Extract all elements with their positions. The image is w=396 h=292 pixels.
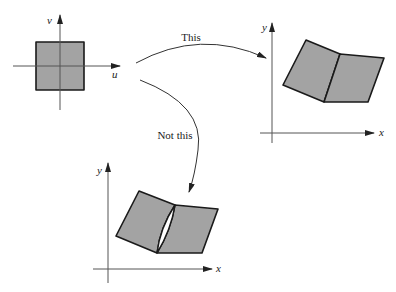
diagram-canvas: v u This y x Not this y x <box>0 0 396 292</box>
source-plot: v u <box>13 14 120 110</box>
y-axis-label: y <box>261 21 267 33</box>
this-label: This <box>181 31 201 43</box>
y-axis-label: y <box>96 164 102 176</box>
this-arrow <box>136 44 266 63</box>
x-axis-label: x <box>215 262 221 274</box>
not-this-label: Not this <box>157 129 192 141</box>
u-axis-label: u <box>112 68 118 80</box>
correct-mapping-plot: y x <box>260 21 384 143</box>
x-axis-label: x <box>378 126 384 138</box>
incorrect-mapping-plot: y x <box>93 163 221 283</box>
v-axis-label: v <box>47 14 52 26</box>
